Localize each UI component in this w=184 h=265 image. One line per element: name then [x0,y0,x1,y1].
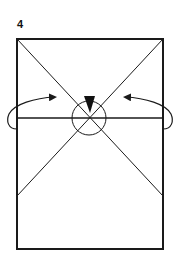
push-arrow-icon [84,96,95,113]
paper-outline [17,39,163,249]
fold-arrow-left-icon [8,97,55,129]
folding-diagram [0,0,184,265]
fold-arrow-right-icon [125,97,172,129]
